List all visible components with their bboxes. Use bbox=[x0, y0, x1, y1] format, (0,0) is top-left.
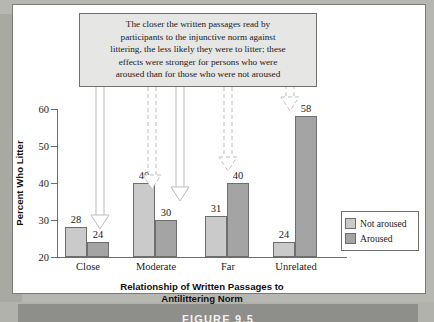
annotation-line-5: aroused than for those who were not arou… bbox=[86, 68, 310, 81]
annotation-callout: The closer the written passages read by … bbox=[79, 13, 317, 87]
annotation-line-2: participants to the injunctive norm agai… bbox=[86, 31, 310, 44]
annotation-line-4: effects were stronger for persons who we… bbox=[86, 56, 310, 69]
legend-swatch-icon bbox=[345, 218, 356, 229]
annotation-line-3: littering, the less likely they were to … bbox=[86, 43, 310, 56]
legend-label: Aroused bbox=[360, 233, 393, 244]
legend-swatch-icon bbox=[345, 233, 356, 244]
chart-legend: Not arousedAroused bbox=[341, 211, 419, 251]
legend-item[interactable]: Aroused bbox=[345, 231, 415, 246]
annotation-line-1: The closer the written passages read by bbox=[86, 18, 310, 31]
legend-label: Not aroused bbox=[360, 218, 407, 229]
figure-panel: The closer the written passages read by … bbox=[12, 4, 426, 294]
figure-caption-bar: FIGURE 9.5 bbox=[18, 304, 418, 322]
legend-item[interactable]: Not aroused bbox=[345, 216, 415, 231]
